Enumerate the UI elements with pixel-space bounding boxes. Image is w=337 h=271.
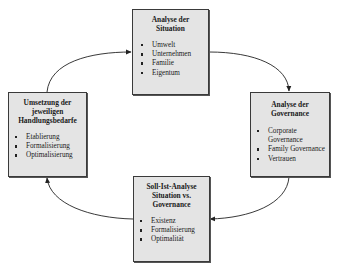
title-line: Analyse der [137,15,204,24]
box-title: Umsetzung der jeweiligen Handlungsbedarf… [13,98,82,125]
arrow-left-to-top [47,52,131,92]
bullet-icon [140,238,142,240]
title-line: Governance [255,109,325,118]
list-item: Umwelt [139,41,204,50]
list-item-text: Eigentum [152,69,180,77]
title-line: Soll-Ist-Analyse [138,182,205,191]
box-umsetzung: Umsetzung der jeweiligen Handlungsbedarf… [8,92,87,177]
bullet-icon [257,130,259,132]
list-item-text: Umwelt [152,41,175,49]
list-item: Optimalisierung [13,151,82,160]
bullet-icon [141,44,143,46]
list-item-text: Etablierung [26,133,60,141]
title-line: Handlungsbedarfe [13,116,82,125]
bullet-icon [257,148,259,150]
bullet-list: Etablierung Formalisierung Optimalisieru… [13,133,82,161]
box-soll-ist-analyse: Soll-Ist-Analyse Situation vs. Governanc… [133,176,210,262]
bullet-icon [141,72,143,74]
list-item-text: Existenz [151,217,176,225]
bullet-list: Existenz Formalisierung Optimalität [138,217,205,245]
box-title: Analyse der Governance [255,100,325,118]
list-item-text: Optimalisierung [26,151,73,159]
title-line: Umsetzung der [13,98,82,107]
arrow-bottom-to-left [47,178,133,219]
bullet-icon [15,145,17,147]
list-item: Optimalität [138,235,205,244]
list-item-text: Unternehmen [152,50,191,58]
list-item-text: Formalisierung [151,226,195,234]
list-item: Formalisierung [13,142,82,151]
list-item: Eigentum [139,69,204,78]
title-line: Governance [138,200,205,209]
bullet-icon [140,220,142,222]
list-item: Etablierung [13,133,82,142]
box-analyse-situation: Analyse der Situation Umwelt Unternehmen… [132,9,209,95]
bullet-icon [141,62,143,64]
bullet-icon [140,229,142,231]
list-item: Familie [139,59,204,68]
box-title: Analyse der Situation [137,15,204,33]
bullet-list: Umwelt Unternehmen Familie Eigentum [137,41,204,78]
title-line: Situation vs. [138,191,205,200]
list-item: Family Governance [255,145,325,154]
title-line: Situation [137,24,204,33]
list-item-text: Corporate Governance [268,127,303,144]
arrow-top-to-right [209,52,289,91]
list-item: Existenz [138,217,205,226]
title-line: Analyse der [255,100,325,109]
title-line: jeweiligen [13,107,82,116]
box-analyse-governance: Analyse der Governance Corporate Governa… [250,92,330,177]
list-item: Vertrauen [255,155,325,164]
list-item-text: Family Governance [268,145,325,153]
bullet-icon [15,136,17,138]
arrow-right-to-bottom [210,177,289,219]
bullet-icon [141,53,143,55]
list-item-text: Formalisierung [26,142,70,150]
list-item: Formalisierung [138,226,205,235]
list-item: Unternehmen [139,50,204,59]
list-item-text: Optimalität [151,235,184,243]
list-item-text: Vertrauen [268,155,296,163]
bullet-list: Corporate Governance Family Governance V… [255,127,325,164]
list-item: Corporate Governance [255,127,325,145]
bullet-icon [15,154,17,156]
list-item-text: Familie [152,59,174,67]
box-title: Soll-Ist-Analyse Situation vs. Governanc… [138,182,205,209]
bullet-icon [257,158,259,160]
